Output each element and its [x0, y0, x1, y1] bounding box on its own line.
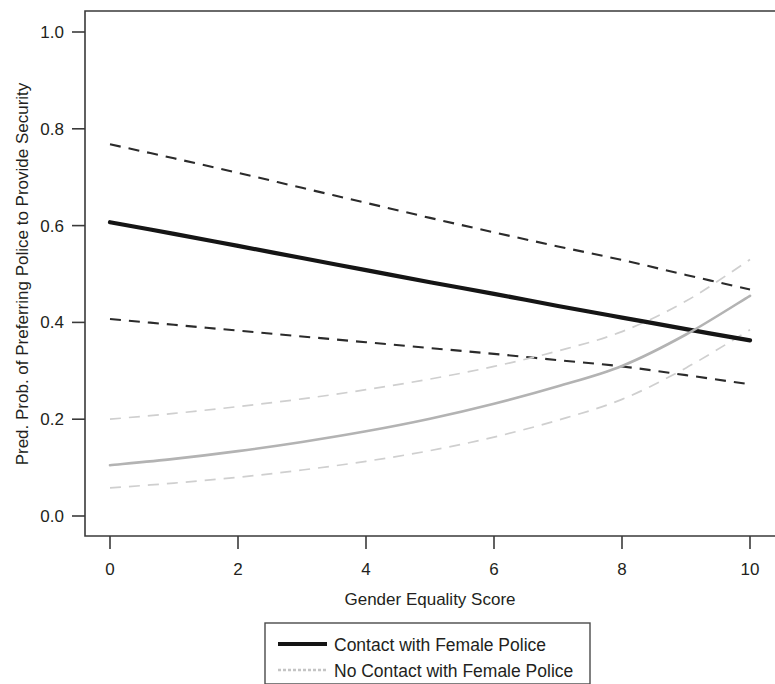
y-tick-label: 0.4: [40, 313, 64, 332]
x-tick-label: 6: [489, 560, 498, 579]
x-axis-tick-labels: 0 2 4 6 8 10: [105, 560, 759, 579]
y-tick-label: 0.6: [40, 217, 64, 236]
x-tick-label: 0: [105, 560, 114, 579]
x-tick-label: 8: [617, 560, 626, 579]
ci-upper-contact: [110, 144, 750, 289]
y-axis-ticks: [72, 32, 85, 516]
x-axis-title: Gender Equality Score: [344, 590, 515, 609]
y-tick-label: 0.2: [40, 410, 64, 429]
chart-canvas: 1.0 0.8 0.6 0.4 0.2 0.0 0 2 4 6 8 10 Gen…: [0, 0, 775, 684]
legend-label-no-contact: No Contact with Female Police: [334, 661, 573, 681]
y-axis-tick-labels: 1.0 0.8 0.6 0.4 0.2 0.0: [40, 23, 64, 526]
series-line-no-contact: [110, 296, 750, 465]
series-layer: [110, 144, 750, 488]
x-tick-label: 10: [741, 560, 760, 579]
y-axis-title: Pred. Prob. of Preferring Police to Prov…: [13, 82, 32, 465]
y-tick-label: 1.0: [40, 23, 64, 42]
legend-label-contact: Contact with Female Police: [334, 635, 546, 655]
ci-lower-no-contact: [110, 330, 750, 488]
figure-container: 1.0 0.8 0.6 0.4 0.2 0.0 0 2 4 6 8 10 Gen…: [0, 0, 775, 684]
legend: Contact with Female Police No Contact wi…: [265, 623, 590, 684]
x-tick-label: 2: [233, 560, 242, 579]
y-tick-label: 0.0: [40, 507, 64, 526]
x-axis-ticks: [110, 536, 750, 549]
x-tick-label: 4: [361, 560, 370, 579]
y-tick-label: 0.8: [40, 120, 64, 139]
series-line-contact: [110, 222, 750, 340]
